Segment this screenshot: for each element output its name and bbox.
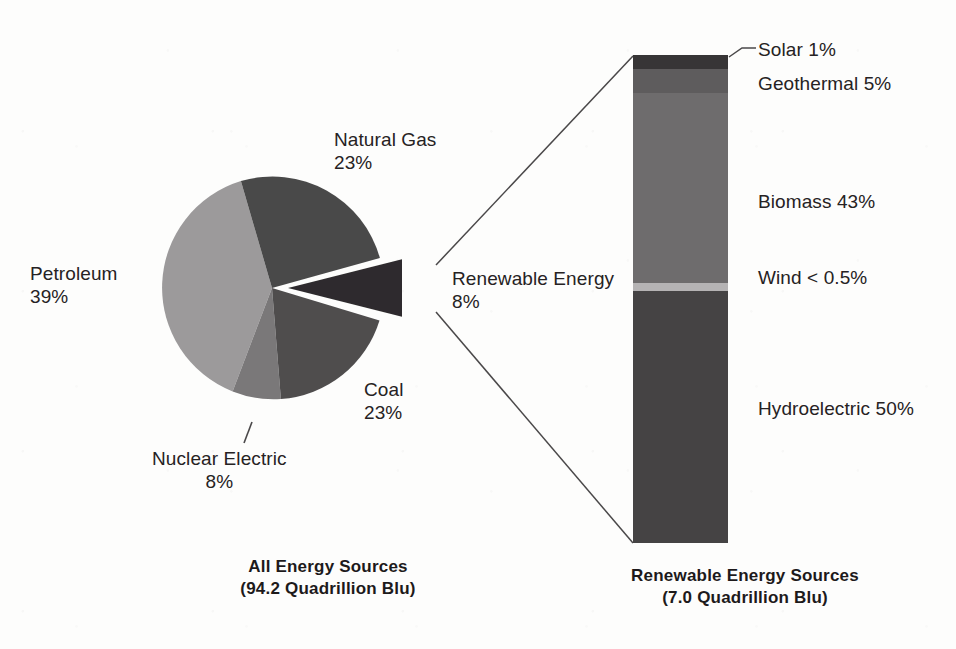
bar-label-geothermal: Geothermal 5% — [758, 72, 891, 95]
leader-line-nuclear-electric — [244, 422, 252, 443]
bar-segment-wind[interactable] — [633, 283, 728, 291]
caption-right-title: Renewable Energy Sources — [631, 566, 859, 585]
bar-label-wind: Wind < 0.5% — [758, 266, 867, 289]
pie-label-nuclear-electric: Nuclear Electric 8% — [152, 447, 287, 493]
bar-label-hydroelectric: Hydroelectric 50% — [758, 397, 914, 420]
caption-renewable-energy-sources: Renewable Energy Sources (7.0 Quadrillio… — [580, 565, 910, 609]
caption-right-subtitle: (7.0 Quadrillion Blu) — [580, 587, 910, 609]
pie-label-renewable-energy-name: Renewable Energy — [452, 268, 614, 289]
pie-label-coal-pct: 23% — [364, 401, 403, 424]
caption-all-energy-sources: All Energy Sources (94.2 Quadrillion Blu… — [168, 556, 488, 600]
bar-segment-hydroelectric[interactable] — [633, 291, 728, 543]
figure-vector-canvas — [0, 0, 956, 649]
pie-label-petroleum-name: Petroleum — [30, 263, 118, 284]
pie-label-petroleum: Petroleum 39% — [30, 262, 118, 308]
pie-label-coal: Coal 23% — [364, 378, 403, 424]
pie-label-petroleum-pct: 39% — [30, 285, 118, 308]
pie-label-natural-gas-pct: 23% — [334, 151, 436, 174]
pie-label-renewable-energy: Renewable Energy 8% — [452, 267, 614, 313]
energy-sources-infographic: Natural Gas 23% Petroleum 39% Nuclear El… — [0, 0, 956, 649]
pie-label-natural-gas-name: Natural Gas — [334, 129, 436, 150]
caption-left-subtitle: (94.2 Quadrillion Blu) — [168, 578, 488, 600]
leader-line-solar — [729, 48, 756, 57]
pie-label-natural-gas: Natural Gas 23% — [334, 128, 436, 174]
pie-label-coal-name: Coal — [364, 379, 403, 400]
bar-segment-solar[interactable] — [633, 55, 728, 69]
pie-label-nuclear-electric-pct: 8% — [152, 470, 287, 493]
stacked-bar-renewable-sources — [633, 55, 728, 543]
bar-segment-geothermal[interactable] — [633, 69, 728, 93]
pie-label-renewable-energy-pct: 8% — [452, 290, 614, 313]
callout-line-upper — [436, 56, 633, 265]
pie-label-nuclear-electric-name: Nuclear Electric — [152, 448, 287, 469]
pie-chart-all-energy — [162, 177, 402, 400]
bar-label-solar: Solar 1% — [758, 38, 836, 61]
callout-line-lower — [436, 312, 633, 543]
bar-label-biomass: Biomass 43% — [758, 190, 875, 213]
caption-left-title: All Energy Sources — [248, 557, 408, 576]
bar-segment-biomass[interactable] — [633, 93, 728, 283]
